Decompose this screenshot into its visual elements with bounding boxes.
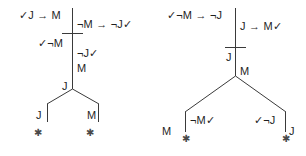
right-branch-left-label-inner: ¬M✓ [190,115,215,126]
left-branch-left-label: J [36,110,42,121]
left-node-neg-j: ¬J✓ [77,48,99,59]
left-branch-right-close-icon: ✱ [86,128,94,138]
left-branch-left-close-icon: ✱ [34,128,42,138]
right-node-premise-2: J → M✓ [240,21,282,32]
left-branch-right-label: M [87,110,96,121]
left-node-premise-1: ✓J → M [19,10,61,21]
left-fork-left [47,89,73,104]
left-node-premise-2: ¬M → ¬J✓ [77,19,132,30]
left-node-neg-m: ✓¬M [38,38,63,49]
right-node-j: J [226,52,232,63]
right-branch-right-close-icon: ✱ [282,134,290,144]
right-branch-left-close-icon: ✱ [182,134,190,144]
right-node-m: M [240,66,249,77]
right-branch-left-label-outer: M [162,126,171,137]
right-branch-right-label-inner: ✓¬J [254,115,276,126]
left-node-j: J [62,81,68,92]
left-fork-right [73,89,100,104]
right-fork-left [185,76,236,112]
left-node-m: M [77,63,86,74]
right-node-premise-1: ✓¬M → ¬J [167,10,222,21]
diagram-canvas: ✓J → M ¬M → ¬J✓ ✓¬M ¬J✓ M J J ✱ M ✱ ✓¬M … [0,0,306,156]
right-fork-right [236,76,287,112]
